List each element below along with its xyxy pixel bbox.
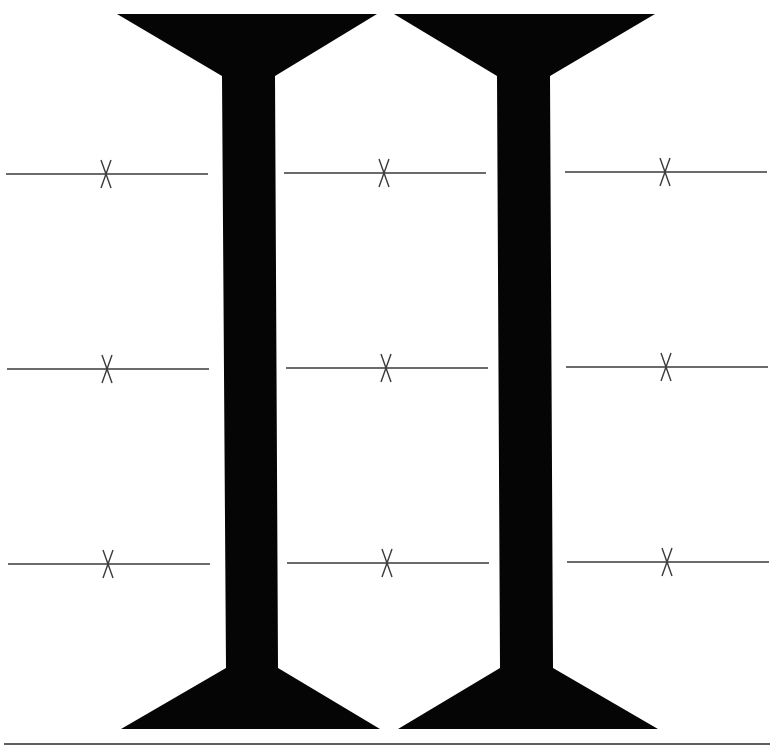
pillar-diagram — [0, 0, 779, 756]
